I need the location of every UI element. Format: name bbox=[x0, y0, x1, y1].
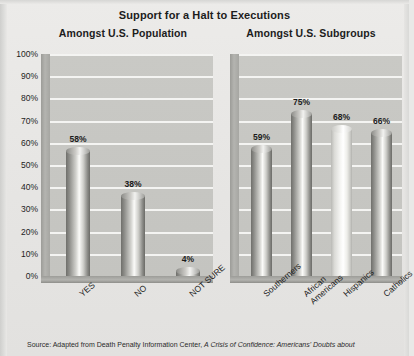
bar-value-label: 59% bbox=[253, 132, 270, 142]
gridline bbox=[50, 54, 213, 56]
category-label: NO bbox=[133, 284, 149, 300]
gridline bbox=[50, 98, 213, 100]
left-chart-panel: 58%38%4% bbox=[41, 54, 213, 282]
right-plot-area: 59%75%68%66% bbox=[239, 54, 402, 276]
y-axis-tick: 20% bbox=[2, 227, 38, 236]
bar: 66% bbox=[371, 129, 392, 276]
bar-cap bbox=[251, 145, 272, 153]
bar-body bbox=[371, 133, 392, 276]
y-axis-tick: 40% bbox=[2, 183, 38, 192]
bar-body bbox=[121, 196, 145, 276]
page-edge-right bbox=[404, 0, 409, 356]
gridline bbox=[50, 121, 213, 123]
source-title: A Crisis of Confidence: Americans' Doubt… bbox=[204, 341, 355, 348]
bar-value-label: 75% bbox=[293, 97, 310, 107]
bar: 68% bbox=[331, 125, 352, 276]
left-plot-area: 58%38%4% bbox=[50, 54, 213, 276]
bar-value-label: 68% bbox=[333, 112, 350, 122]
left-panel-title: Amongst U.S. Population bbox=[28, 27, 218, 39]
y-axis-tick: 30% bbox=[2, 205, 38, 214]
bar-value-label: 58% bbox=[69, 134, 86, 144]
bar-body bbox=[66, 151, 90, 276]
bar: 58% bbox=[66, 147, 90, 276]
gridline bbox=[239, 76, 402, 78]
bar-value-label: 66% bbox=[373, 116, 390, 126]
bar-cap bbox=[121, 192, 145, 200]
y-axis-tick: 50% bbox=[2, 161, 38, 170]
right-plot-wall bbox=[230, 54, 239, 276]
gridline bbox=[50, 76, 213, 78]
gridline bbox=[239, 54, 402, 56]
right-panel-title: Amongst U.S. Subgroups bbox=[218, 27, 404, 39]
bar: 38% bbox=[121, 192, 145, 276]
y-axis-tick: 10% bbox=[2, 249, 38, 258]
left-plot-wall bbox=[41, 54, 50, 276]
y-axis-tick: 100% bbox=[2, 50, 38, 59]
page-edge-top bbox=[0, 0, 409, 4]
right-chart-panel: 59%75%68%66% bbox=[230, 54, 402, 282]
bar-body bbox=[251, 149, 272, 276]
y-axis-tick: 0% bbox=[2, 272, 38, 281]
category-label: YES bbox=[78, 281, 97, 299]
bar-cap bbox=[291, 110, 312, 118]
bar-value-label: 4% bbox=[182, 254, 194, 264]
bar-value-label: 38% bbox=[124, 179, 141, 189]
y-axis-tick: 90% bbox=[2, 72, 38, 81]
bar-body bbox=[291, 114, 312, 277]
gridline bbox=[239, 98, 402, 100]
source-prefix: Source: Adapted from Death Penalty Infor… bbox=[27, 341, 204, 348]
bar-cap bbox=[331, 125, 352, 133]
bar: 59% bbox=[251, 145, 272, 276]
bar-body bbox=[331, 129, 352, 276]
y-axis-tick: 80% bbox=[2, 94, 38, 103]
bar: 75% bbox=[291, 110, 312, 277]
y-axis-ticks: 100%90%80%70%60%50%40%30%20%10%0% bbox=[2, 54, 38, 282]
y-axis-tick: 60% bbox=[2, 138, 38, 147]
left-plot-floor bbox=[41, 276, 213, 283]
bar: 4% bbox=[176, 267, 200, 276]
source-note: Source: Adapted from Death Penalty Infor… bbox=[27, 341, 405, 348]
y-axis-tick: 70% bbox=[2, 116, 38, 125]
figure-title: Support for a Halt to Executions bbox=[0, 9, 409, 21]
